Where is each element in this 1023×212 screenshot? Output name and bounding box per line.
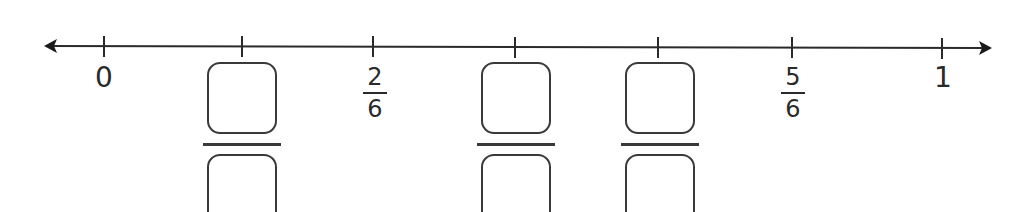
- numerator-input-box[interactable]: [625, 62, 695, 134]
- number-line-diagram: 0 2 6 5 6 1: [0, 0, 1023, 212]
- blank-fraction-1-6: [203, 62, 281, 212]
- fraction-bar: [621, 143, 699, 146]
- numerator: 2: [355, 64, 395, 90]
- label-five-sixths: 5 6: [773, 64, 813, 122]
- blank-fraction-3-6: [477, 62, 555, 212]
- axis-line: [50, 46, 984, 48]
- denominator-input-box[interactable]: [207, 154, 277, 212]
- label-zero: 0: [84, 63, 124, 93]
- denominator: 6: [773, 96, 813, 122]
- denominator: 6: [355, 96, 395, 122]
- fraction-bar: [363, 92, 387, 94]
- denominator-input-box[interactable]: [481, 154, 551, 212]
- numerator: 5: [773, 64, 813, 90]
- label-two-sixths: 2 6: [355, 64, 395, 122]
- numerator-input-box[interactable]: [481, 62, 551, 134]
- blank-fraction-4-6: [621, 62, 699, 212]
- fraction-bar: [477, 143, 555, 146]
- fraction-bar: [203, 143, 281, 146]
- numerator-input-box[interactable]: [207, 62, 277, 134]
- fraction-bar: [781, 92, 805, 94]
- label-one: 1: [923, 63, 963, 93]
- denominator-input-box[interactable]: [625, 154, 695, 212]
